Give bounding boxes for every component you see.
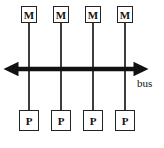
memory-label-1: M	[24, 10, 34, 21]
bus-arrowhead-left	[4, 62, 19, 76]
processor-label-2: P	[58, 116, 65, 127]
bus-label: bus	[137, 77, 152, 89]
memory-label-2: M	[56, 10, 66, 21]
processor-label-3: P	[90, 116, 97, 127]
memory-label-3: M	[88, 10, 98, 21]
memory-box-3: M	[85, 6, 101, 23]
processor-box-3: P	[83, 110, 103, 131]
processor-label-4: P	[122, 116, 129, 127]
memory-box-1: M	[21, 6, 37, 23]
memory-box-4: M	[117, 6, 133, 23]
processor-label-1: P	[26, 116, 33, 127]
processor-box-4: P	[115, 110, 135, 131]
bus-architecture-diagram: M M M M bus P P P P	[0, 0, 164, 148]
memory-label-4: M	[120, 10, 130, 21]
processor-box-1: P	[19, 110, 39, 131]
bus-arrowhead-right	[134, 62, 149, 76]
memory-box-2: M	[53, 6, 69, 23]
processor-box-2: P	[51, 110, 71, 131]
